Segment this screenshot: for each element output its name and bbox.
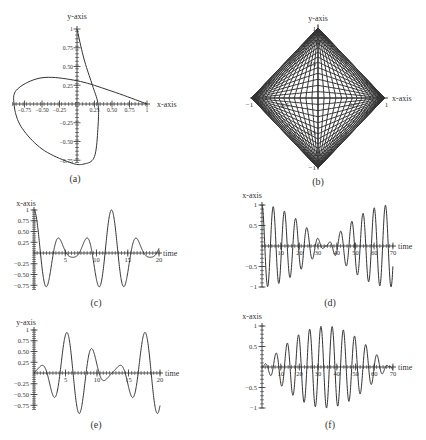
y-axis-title: y-axis [16,318,36,327]
y-axis-title: y-axis [308,14,328,23]
x-axis-title: x-axis [392,94,412,103]
x-tick-label: 5 [64,256,67,263]
y-tick-label: −0.5 [303,129,316,137]
panel-f: 1020304050607010.5−0.5−1timex-axis [242,312,412,411]
x-tick-label: 30 [315,249,322,256]
y-tick-label: 1 [254,322,257,329]
y-tick-label: −0.5 [245,263,257,270]
y-tick-label: 1 [313,25,317,33]
y-tick-label: 1 [26,326,29,333]
x-tick-label: 70 [390,249,397,256]
x-tick-label: 20 [157,376,164,383]
y-tick-label: −1 [250,404,257,411]
y-tick-label: −0.75 [14,282,29,289]
x-tick-label: 0.50 [107,107,117,113]
caption-d: (d) [324,297,336,309]
x-tick-label: −0.25 [53,107,67,113]
x-axis-title: time [398,242,413,251]
y-tick-label: 0.5 [249,222,257,229]
x-tick-label: 40 [334,370,341,377]
y-tick-label: 0.50 [18,228,29,235]
y-tick-label: −1 [309,164,317,172]
x-axis-title: time [165,369,180,378]
y-axis-title: x-axis [16,199,36,208]
y-tick-label: 0.50 [18,348,29,355]
panel-b: −1−0.50.5110.5−0.5−1x-axisy-axis [246,14,412,172]
x-tick-label: 20 [156,256,163,263]
y-tick-label: −0.50 [14,391,29,398]
y-tick-label: −0.5 [245,384,257,391]
y-tick-label: 0.50 [63,64,73,70]
y-tick-label: 0.25 [18,239,29,246]
x-tick-label: −1 [246,101,254,109]
y-tick-label: 0.25 [18,359,29,366]
x-tick-label: −0.50 [35,107,49,113]
x-axis-title: x-axis [157,100,177,109]
x-tick-label: 5 [64,376,67,383]
caption-c: (c) [90,297,101,309]
panel-e: 510152010.750.500.25−0.25−0.50−0.75timey… [14,318,180,413]
y-axis-title: x-axis [242,312,262,321]
figure-canvas: −0.75−0.50−0.250.250.500.75110.750.500.2… [0,0,426,440]
x-tick-label: 1 [385,101,389,109]
y-tick-label: 0.25 [63,83,73,89]
panel-c: 510152010.750.500.25−0.25−0.50−0.75timex… [14,199,178,290]
y-tick-label: −1 [250,283,257,290]
y-axis-title: y-axis [67,12,87,21]
y-tick-label: 0.5 [307,60,316,68]
x-tick-label: 0.5 [349,101,358,109]
x-axis-title: time [163,249,178,258]
x-tick-label: 1 [146,107,149,113]
caption-e: (e) [90,419,101,431]
y-tick-label: 0.5 [249,343,257,350]
x-tick-label: 10 [93,256,100,263]
panel-a: −0.75−0.50−0.250.250.500.75110.750.500.2… [13,12,177,165]
x-tick-label: 10 [277,370,284,377]
y-tick-label: −0.25 [14,380,29,387]
time-series-curve [34,210,159,287]
y-tick-label: −0.50 [14,271,29,278]
y-tick-label: 1 [254,201,257,208]
panel-d: 1020304050607010.5−0.5−1timex-axis [242,191,412,290]
x-axis-title: time [398,363,413,372]
caption-f: (f) [325,419,335,431]
y-tick-label: 0.75 [18,217,29,224]
y-tick-label: −0.25 [60,120,74,126]
x-tick-label: −0.75 [18,107,32,113]
x-tick-label: 70 [390,370,397,377]
y-tick-label: −0.25 [14,260,29,267]
y-tick-label: 0.75 [18,337,29,344]
y-tick-label: −0.50 [60,139,74,145]
x-tick-label: 0.75 [124,107,134,113]
x-tick-label: −0.5 [276,101,289,109]
y-tick-label: 1 [70,26,73,32]
y-axis-title: x-axis [242,191,262,200]
x-tick-label: 60 [371,249,378,256]
x-tick-label: 10 [94,376,101,383]
y-tick-label: −0.75 [14,402,29,409]
y-tick-label: 0.75 [63,45,73,51]
parametric-curve [14,29,147,165]
caption-b: (b) [312,176,324,188]
caption-a: (a) [69,173,80,185]
